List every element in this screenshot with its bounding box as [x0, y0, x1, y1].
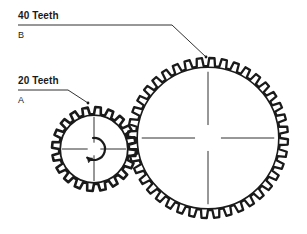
gear-a-teeth-label: 20 Teeth	[18, 76, 59, 86]
gear-a-id-label: A	[18, 96, 24, 105]
leader-line-b	[18, 25, 206, 57]
gear-diagram-canvas: 40 Teeth B 20 Teeth A	[0, 0, 307, 234]
leader-line-b-terminator-dot	[205, 56, 208, 59]
gear-b-teeth-label: 40 Teeth	[18, 11, 59, 21]
gear-diagram-svg	[0, 0, 307, 234]
leader-line-a	[18, 90, 88, 103]
leader-line-a-terminator-dot	[87, 102, 90, 105]
rotation-arrow-group	[87, 138, 105, 163]
gear-b-id-label: B	[18, 31, 24, 40]
